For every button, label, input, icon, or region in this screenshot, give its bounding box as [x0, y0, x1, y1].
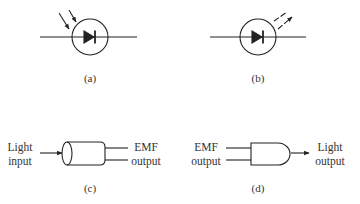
source-body: [251, 143, 290, 165]
caption-b: (b): [252, 72, 265, 84]
caption-d: (d): [252, 182, 265, 194]
panel-c-detector-block: [40, 142, 128, 165]
outgoing-light-arrow-1: [274, 12, 287, 21]
cylinder-body: [67, 142, 105, 165]
panel-d-source-block: [226, 143, 309, 165]
emf-output-label-line1: EMF: [187, 140, 225, 154]
panel-b-led-symbol: [210, 12, 306, 55]
cylinder-face: [62, 142, 72, 165]
caption-a: (a): [84, 72, 96, 84]
diode-triangle-icon: [252, 31, 262, 43]
light-input-label: Light input: [2, 140, 38, 168]
incoming-light-arrow-1: [59, 13, 69, 29]
incoming-light-arrow-2: [69, 10, 76, 22]
light-output-label-line1: Light: [311, 140, 349, 154]
emf-output-label-line2: output: [128, 154, 164, 168]
caption-c: (c): [84, 182, 96, 194]
emf-output-label-line2: output: [187, 154, 225, 168]
emf-output-label-d: EMF output: [187, 140, 225, 168]
light-input-label-line1: Light: [2, 140, 38, 154]
light-output-label-line2: output: [311, 154, 349, 168]
outgoing-light-arrow-2: [278, 17, 292, 29]
diode-triangle-icon: [84, 31, 94, 43]
emf-output-label-line1: EMF: [128, 140, 164, 154]
light-input-label-line2: input: [2, 154, 38, 168]
panel-a-photodiode-symbol: [40, 10, 137, 55]
light-output-label: Light output: [311, 140, 349, 168]
figure-canvas: [0, 0, 360, 204]
emf-output-label-c: EMF output: [128, 140, 164, 168]
